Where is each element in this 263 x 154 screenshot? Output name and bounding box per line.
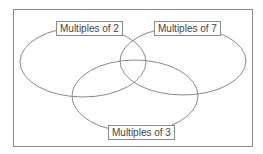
set-multiples-of-7-ellipse xyxy=(120,27,246,95)
label-multiples-of-2: Multiples of 2 xyxy=(56,21,123,36)
label-multiples-of-3: Multiples of 3 xyxy=(108,125,175,140)
set-multiples-of-2-ellipse xyxy=(20,27,146,97)
label-multiples-of-7: Multiples of 7 xyxy=(154,21,221,36)
set-multiples-of-3-ellipse xyxy=(72,60,198,132)
